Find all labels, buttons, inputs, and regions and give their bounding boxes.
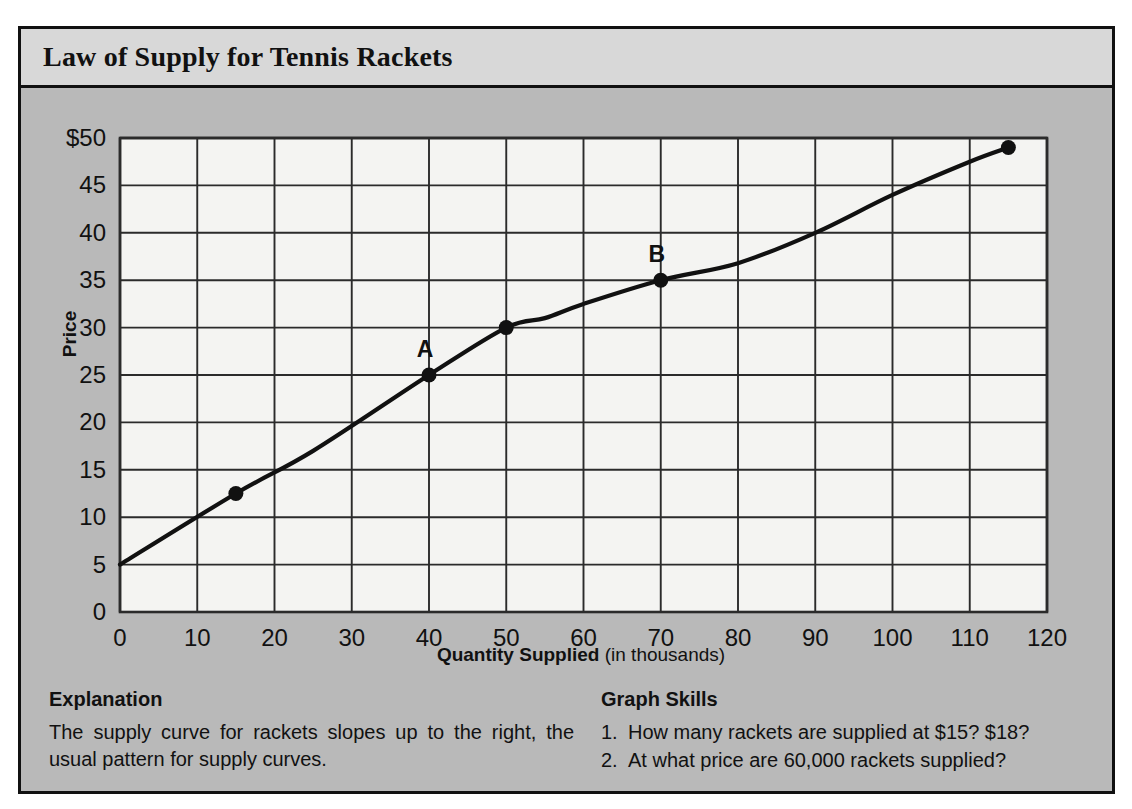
explanation-heading: Explanation (49, 688, 575, 711)
y-tick-label: 35 (79, 266, 106, 293)
data-point-marker (228, 486, 243, 501)
chart-area: Price 051015202530354045$500102030405060… (21, 88, 1112, 791)
data-point-marker (653, 273, 668, 288)
explanation-body: The supply curve for rackets slopes up t… (49, 719, 574, 773)
y-tick-label: 10 (79, 503, 106, 530)
x-axis-title: Quantity Supplied (in thousands) (101, 644, 1061, 666)
graph-skill-item: 2.At what price are 60,000 rackets suppl… (601, 747, 1102, 774)
x-axis-title-sub: (in thousands) (605, 644, 725, 665)
data-point-marker (422, 368, 437, 383)
explanation-column: Explanation The supply curve for rackets… (21, 688, 585, 809)
y-tick-label: 25 (79, 361, 106, 388)
y-tick-label: 30 (79, 314, 106, 341)
data-point-marker (499, 320, 514, 335)
data-point-marker (1001, 140, 1016, 155)
supply-curve-chart: 051015202530354045$500102030405060708090… (21, 88, 1112, 648)
y-tick-label: 5 (93, 551, 106, 578)
y-tick-label: 45 (79, 171, 106, 198)
graph-skill-text: At what price are 60,000 rackets supplie… (628, 747, 1102, 774)
y-tick-label: 40 (79, 219, 106, 246)
figure-title: Law of Supply for Tennis Rackets (43, 41, 453, 73)
y-tick-label: $50 (66, 124, 106, 151)
y-tick-label: 20 (79, 408, 106, 435)
y-tick-label: 0 (93, 598, 106, 625)
graph-skills-column: Graph Skills 1.How many rackets are supp… (585, 688, 1112, 809)
graph-skill-number: 1. (601, 719, 628, 746)
data-point-label: A (417, 336, 434, 362)
page-canvas: Law of Supply for Tennis Rackets Price 0… (0, 0, 1132, 809)
graph-skills-list: 1.How many rackets are supplied at $15? … (601, 719, 1102, 774)
caption-block: Explanation The supply curve for rackets… (21, 688, 1112, 809)
x-axis-title-main: Quantity Supplied (437, 644, 605, 665)
y-tick-label: 15 (79, 456, 106, 483)
graph-skill-item: 1.How many rackets are supplied at $15? … (601, 719, 1102, 746)
graph-skill-number: 2. (601, 747, 628, 774)
figure-title-bar: Law of Supply for Tennis Rackets (21, 29, 1112, 88)
graph-skills-heading: Graph Skills (601, 688, 1102, 711)
graph-skill-text: How many rackets are supplied at $15? $1… (628, 719, 1102, 746)
figure-frame: Law of Supply for Tennis Rackets Price 0… (18, 26, 1115, 794)
data-point-label: B (648, 241, 665, 267)
